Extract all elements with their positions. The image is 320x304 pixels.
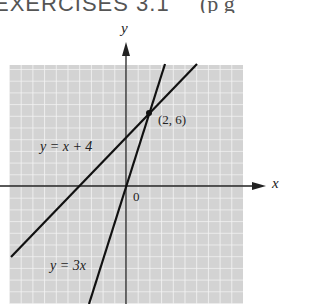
x-axis-arrow-icon	[252, 182, 266, 190]
y-axis-arrow-icon	[122, 42, 130, 56]
series-label-y-equals-3x: y = 3x	[50, 258, 86, 274]
intersection-label: (2, 6)	[158, 112, 186, 128]
series-label-y-equals-x-plus-4: y = x + 4	[40, 139, 92, 155]
y-axis-label: y	[121, 20, 128, 37]
intersection-point	[146, 110, 152, 116]
x-axis-label: x	[272, 175, 279, 192]
origin-label: 0	[133, 189, 140, 205]
